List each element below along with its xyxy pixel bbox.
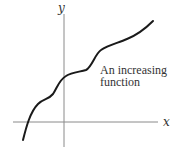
y-axis-label: y: [57, 1, 65, 15]
x-axis-label: x: [163, 115, 170, 129]
annotation-line-2: function: [100, 75, 140, 89]
function-diagram: y x An increasing function: [0, 0, 181, 154]
